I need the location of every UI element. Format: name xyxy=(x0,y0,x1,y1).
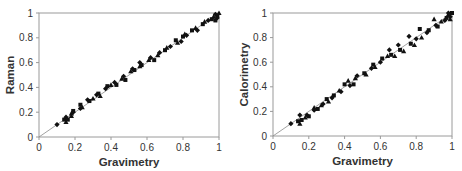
data-point xyxy=(427,28,431,32)
calorimetry-vs-gravimetry-chart: 00.20.40.60.8100.20.40.60.81GravimetryCa… xyxy=(238,8,455,168)
data-point xyxy=(409,42,413,46)
data-point xyxy=(190,28,194,32)
x-tick-label: 1 xyxy=(449,141,455,152)
scatter-figure: 00.20.40.60.8100.20.40.60.81GravimetryRa… xyxy=(0,0,462,171)
data-point xyxy=(436,25,440,29)
data-point xyxy=(123,78,127,82)
data-point xyxy=(152,58,156,62)
y-axis-label: Raman xyxy=(4,56,16,94)
data-point xyxy=(332,93,336,97)
data-point xyxy=(387,47,392,52)
data-point xyxy=(414,36,419,41)
data-point xyxy=(406,34,411,39)
y-axis-label: Calorimetry xyxy=(238,42,250,107)
data-point xyxy=(352,82,356,86)
data-point xyxy=(346,78,351,83)
data-point xyxy=(66,118,70,122)
x-tick-label: 1 xyxy=(216,142,222,153)
x-tick-label: 0.8 xyxy=(409,141,423,152)
y-tick-label: 0.2 xyxy=(253,106,267,117)
y-tick-label: 0 xyxy=(27,132,33,143)
data-point xyxy=(389,53,393,57)
data-point xyxy=(288,121,293,126)
data-point xyxy=(418,27,422,31)
data-point xyxy=(316,107,320,111)
x-axis-label: Gravimetry xyxy=(332,155,393,167)
data-point xyxy=(213,18,217,22)
data-point xyxy=(114,83,118,87)
y-tick-label: 0.2 xyxy=(19,107,33,118)
x-tick-label: 0.4 xyxy=(338,141,352,152)
data-point xyxy=(300,118,304,122)
x-tick-label: 0.2 xyxy=(68,142,82,153)
x-tick-label: 0.8 xyxy=(176,142,190,153)
data-point xyxy=(54,122,59,127)
y-tick-label: 0.6 xyxy=(19,57,33,68)
data-point xyxy=(432,17,437,22)
y-tick-label: 0.8 xyxy=(253,32,267,43)
data-point xyxy=(419,35,424,40)
data-point xyxy=(140,63,144,67)
x-tick-label: 0 xyxy=(270,141,276,152)
y-tick-label: 1 xyxy=(27,8,33,19)
data-point xyxy=(307,114,311,118)
x-tick-label: 0.2 xyxy=(302,141,316,152)
y-tick-label: 0.8 xyxy=(19,32,33,43)
raman-vs-gravimetry-chart: 00.20.40.60.8100.20.40.60.81GravimetryRa… xyxy=(4,8,222,169)
data-point xyxy=(297,112,302,117)
x-tick-label: 0.6 xyxy=(373,141,387,152)
y-tick-label: 0 xyxy=(261,131,267,142)
data-point xyxy=(343,82,347,86)
data-point xyxy=(398,48,402,52)
x-tick-label: 0.4 xyxy=(104,142,118,153)
data-point xyxy=(396,42,401,47)
data-point xyxy=(87,99,91,103)
x-tick-label: 0 xyxy=(36,142,42,153)
y-tick-label: 1 xyxy=(261,8,267,19)
x-tick-label: 0.6 xyxy=(140,142,154,153)
data-point xyxy=(132,68,136,72)
data-point xyxy=(380,57,384,61)
y-tick-label: 0.6 xyxy=(253,57,267,68)
y-tick-label: 0.4 xyxy=(253,81,267,92)
y-tick-label: 0.4 xyxy=(19,82,33,93)
data-point xyxy=(105,84,109,88)
x-axis-label: Gravimetry xyxy=(99,156,160,168)
